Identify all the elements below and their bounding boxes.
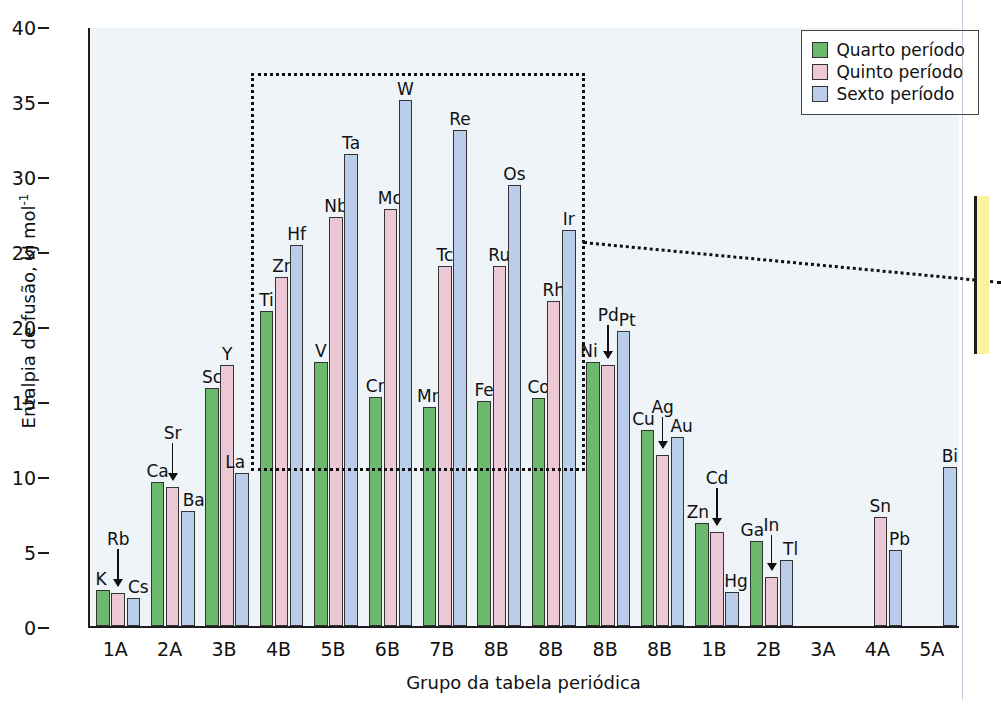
x-axis-tick-label: 4B <box>266 638 291 660</box>
x-axis-tick-label: 7B <box>429 638 454 660</box>
bar-value-label: Ag <box>651 399 673 416</box>
bar <box>508 185 522 626</box>
bar <box>780 560 794 626</box>
page-bottom-band <box>0 700 1001 706</box>
bar <box>750 541 764 627</box>
x-axis-tick-label: 3B <box>212 638 237 660</box>
x-axis-tick-label: 3A <box>810 638 835 660</box>
y-axis-tick-label: 25 <box>12 242 36 264</box>
bar <box>205 388 219 627</box>
bar <box>111 593 125 626</box>
bar <box>562 230 576 626</box>
bar-value-label: V <box>315 343 327 360</box>
bar-value-label: Hg <box>724 573 748 590</box>
x-axis-title: Grupo da tabela periódica <box>88 672 959 693</box>
bar-value-label: K <box>96 571 107 588</box>
y-axis-title-exponent: -1 <box>17 194 31 206</box>
bar-value-label: Ba <box>183 492 205 509</box>
bar-value-label: Bi <box>942 448 958 465</box>
bar <box>493 266 507 626</box>
y-axis-tick-mark <box>38 552 49 554</box>
bar <box>725 592 739 627</box>
legend-color-swatch <box>812 86 828 102</box>
bar <box>710 532 724 627</box>
bar <box>151 482 165 626</box>
annotation-arrow <box>172 443 174 480</box>
bar <box>260 311 274 626</box>
y-axis-title: Entalpia de fusão, kJ mol-1 <box>17 51 39 571</box>
bar <box>547 301 561 627</box>
bar <box>586 362 600 626</box>
page-edge-rule <box>962 0 963 706</box>
legend-item: Quarto período <box>812 40 965 60</box>
y-axis-tick-mark <box>38 477 49 479</box>
bar-value-label: Zr <box>272 258 291 275</box>
y-axis-tick-label: 10 <box>12 467 36 489</box>
bar-value-label: Tl <box>783 541 798 558</box>
bar-value-label: Cd <box>706 470 729 487</box>
annotation-arrow <box>662 417 664 448</box>
x-axis-tick-label: 6B <box>375 638 400 660</box>
bar-value-label: Pb <box>889 531 910 548</box>
bar-value-label: Cr <box>366 378 385 395</box>
bar <box>344 154 358 627</box>
bar-value-label: Y <box>222 346 232 363</box>
bar-value-label: Ir <box>563 211 575 228</box>
y-axis-tick-label: 35 <box>12 92 36 114</box>
bar <box>275 277 289 627</box>
bar-value-label: Fe <box>475 382 494 399</box>
bar <box>889 550 903 627</box>
bar <box>874 517 888 627</box>
y-axis-tick-label: 40 <box>12 17 36 39</box>
y-axis-tick-mark <box>38 102 49 104</box>
x-axis-tick-label: 4A <box>865 638 890 660</box>
x-axis-tick-label: 5B <box>320 638 345 660</box>
legend-item-label: Sexto período <box>836 84 954 104</box>
bars-container: KCaScTiVCrMnFeCoNiCuZnGaRbSrYZrNbMoTcRuR… <box>90 28 959 626</box>
annotation-arrow <box>607 325 609 358</box>
bar <box>220 365 234 626</box>
bar-value-label: Ni <box>580 343 597 360</box>
y-axis-tick-mark <box>38 627 49 629</box>
bar <box>399 100 413 627</box>
bar-value-label: W <box>397 81 414 98</box>
legend-item: Quinto período <box>812 62 965 82</box>
legend-color-swatch <box>812 64 828 80</box>
y-axis-tick-label: 5 <box>24 542 36 564</box>
bar <box>671 437 685 626</box>
legend-item-label: Quarto período <box>836 40 965 60</box>
bar <box>617 331 631 627</box>
bar-value-label: Hf <box>287 226 306 243</box>
figure-root: s, em uma rede cristalina. O magnésiose … <box>0 0 1001 706</box>
x-axis-tick-label: 8B <box>647 638 672 660</box>
bar <box>384 209 398 626</box>
bar-value-label: Au <box>670 418 692 435</box>
bar-value-label: In <box>764 517 780 534</box>
bar <box>181 511 195 627</box>
bar <box>314 362 328 626</box>
bar-value-label: Sc <box>202 369 222 386</box>
bar <box>532 398 546 626</box>
annotation-arrow <box>771 535 773 570</box>
bar-value-label: Tc <box>436 247 453 264</box>
legend-color-swatch <box>812 42 828 58</box>
x-axis-tick-label: 8B <box>484 638 509 660</box>
x-axis-tick-label: 5A <box>919 638 944 660</box>
bar-value-label: Pd <box>598 307 619 324</box>
y-axis-tick-label: 15 <box>12 392 36 414</box>
legend-item-label: Quinto período <box>836 62 963 82</box>
x-axis-tick-label: 8B <box>593 638 618 660</box>
bar <box>601 365 615 626</box>
annotation-arrow <box>117 549 119 586</box>
bar-value-label: Rb <box>107 531 130 548</box>
bar <box>96 590 110 626</box>
bar <box>943 467 957 626</box>
y-axis-tick-mark <box>38 27 49 29</box>
y-axis-tick-label: 0 <box>24 617 36 639</box>
bar <box>166 487 180 627</box>
bar <box>127 598 141 627</box>
bar-value-label: Ta <box>342 135 360 152</box>
annotation-arrow <box>716 488 718 525</box>
bar-value-label: Zn <box>687 504 709 521</box>
x-axis-tick-label: 2B <box>756 638 781 660</box>
